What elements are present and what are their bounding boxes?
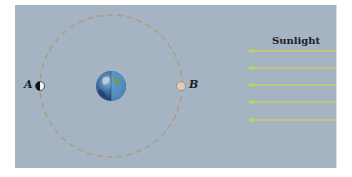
arrow-left-icon bbox=[247, 118, 336, 123]
position-a-label: A bbox=[24, 78, 33, 91]
earth-globe-icon bbox=[96, 71, 126, 101]
sunlight-rays bbox=[247, 49, 336, 123]
arrow-left-icon bbox=[247, 83, 336, 88]
full-moon-icon bbox=[177, 82, 186, 91]
half-moon-icon bbox=[36, 82, 45, 91]
orbit-diagram bbox=[0, 0, 352, 177]
sunlight-label: Sunlight bbox=[272, 35, 320, 46]
arrow-left-icon bbox=[247, 49, 336, 54]
position-b-label: B bbox=[189, 78, 198, 91]
arrow-left-icon bbox=[247, 100, 336, 105]
arrow-left-icon bbox=[247, 66, 336, 71]
